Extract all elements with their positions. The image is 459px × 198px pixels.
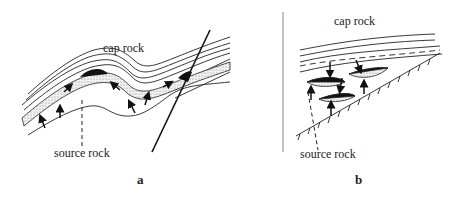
cap-rock-label-b: cap rock [334,14,375,29]
panel-b-strata [300,34,442,72]
lens-reservoirs [307,68,388,102]
panel-label-a: a [137,172,144,188]
panel-label-b: b [355,172,362,188]
source-rock-label-b: source rock [300,147,356,162]
unconformity-surface [296,53,440,140]
cap-rock-label-a: cap rock [103,41,144,56]
source-rock-pointer-b [308,92,318,150]
diagram-canvas [0,0,459,198]
source-rock-label-a: source rock [54,146,110,161]
migration-arrows-b [311,60,364,116]
